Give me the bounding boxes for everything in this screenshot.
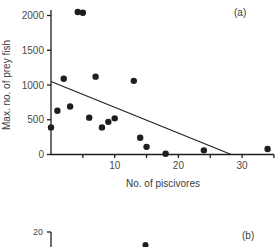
data-point: [143, 144, 149, 150]
data-point: [201, 147, 207, 153]
data-point: [92, 73, 98, 79]
panel-label-a: (a): [234, 7, 246, 18]
data-point: [112, 115, 118, 121]
y-tick-label: 500: [27, 114, 44, 125]
data-point-b: [143, 242, 149, 247]
y-tick-label: 0: [38, 149, 44, 160]
x-tick-label: 30: [237, 160, 249, 171]
data-point: [131, 78, 137, 84]
data-point: [61, 76, 67, 82]
x-axis-label: No. of piscivores: [126, 178, 200, 189]
scatter-chart-b: 20 (b): [0, 222, 277, 247]
y-ticks: 0500100015002000: [22, 10, 51, 160]
panel-label-b: (b): [242, 230, 254, 241]
x-tick-label: 10: [109, 160, 121, 171]
data-point: [67, 103, 73, 109]
y-tick-label: 1500: [22, 45, 45, 56]
scatter-chart-a: 0500100015002000 102030 (a) No. of pisci…: [0, 0, 277, 200]
data-point: [99, 124, 105, 130]
data-point: [48, 124, 54, 130]
data-point: [86, 114, 92, 120]
y-tick-label: 1000: [22, 80, 45, 91]
y-axis-label: Max. no. of prey fish: [1, 40, 12, 130]
data-points: [48, 9, 271, 157]
data-point: [80, 10, 86, 16]
data-point: [162, 151, 168, 157]
y-tick-label: 2000: [22, 10, 45, 21]
data-point: [54, 108, 60, 114]
data-point: [264, 146, 270, 152]
regression-line: [51, 82, 231, 155]
x-tick-label: 20: [173, 160, 185, 171]
x-ticks: 102030: [83, 155, 274, 171]
data-point: [105, 119, 111, 125]
data-point: [137, 135, 143, 141]
y-tick-label-b: 20: [33, 227, 43, 237]
